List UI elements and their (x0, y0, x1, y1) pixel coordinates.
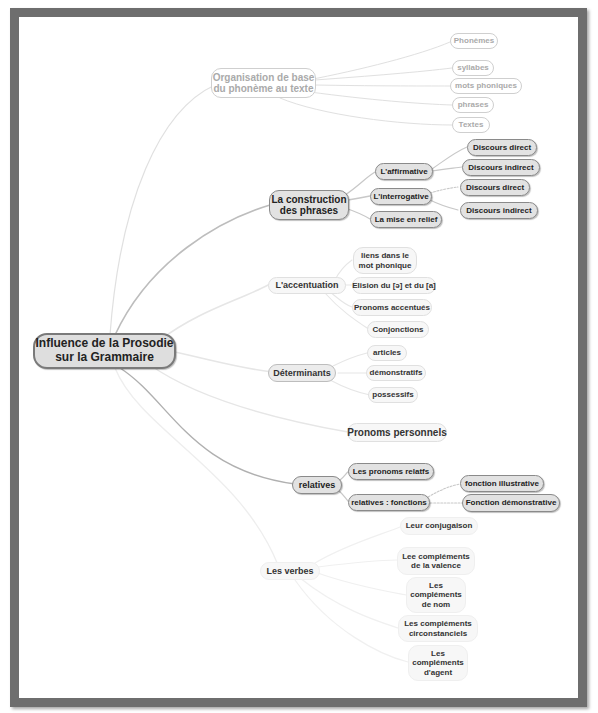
node-complements-agent[interactable]: Les compléments d'agent (408, 645, 468, 681)
node-verbes-label: Les verbes (266, 566, 313, 577)
node-relatives[interactable]: relatives (292, 476, 342, 494)
node-phonemes[interactable]: Phonèmes (450, 33, 498, 49)
node-articles[interactable]: articles (367, 345, 407, 361)
node-accentuation[interactable]: L'accentuation (268, 277, 346, 294)
node-mots-phoniques[interactable]: mots phoniques (450, 78, 522, 94)
node-liens-mot-phonique[interactable]: liens dans le mot phonique (353, 247, 417, 274)
node-syllabes[interactable]: syllabes (452, 60, 494, 76)
node-textes-label: Textes (459, 120, 484, 130)
node-conjugaison[interactable]: Leur conjugaison (400, 517, 478, 535)
node-syllabes-label: syllabes (457, 63, 489, 73)
node-complements-nom[interactable]: Les compléments de nom (406, 577, 466, 613)
node-possessifs[interactable]: possessifs (368, 387, 418, 403)
root-node[interactable]: Influence de la Prosodie sur la Grammair… (33, 333, 176, 369)
node-mise-en-relief-label: La mise en relief (375, 215, 438, 225)
node-fonction-illustrative[interactable]: fonction illustrative (460, 475, 544, 492)
node-organisation[interactable]: Organisation de base du phonème au texte (211, 68, 316, 98)
node-phrases-label: phrases (458, 100, 489, 110)
node-possessifs-label: possessifs (372, 390, 413, 400)
node-affirmative-indirect-label: Discours indirect (468, 163, 533, 173)
node-affirmative-direct-label: Discours direct (473, 143, 531, 153)
node-articles-label: articles (373, 348, 401, 358)
node-accentuation-label: L'accentuation (275, 280, 338, 291)
node-liens-mot-phonique-label: liens dans le mot phonique (354, 251, 416, 269)
node-affirmative[interactable]: L'affirmative (375, 163, 433, 180)
node-relatives-fonctions-label: relatives : fonctions (351, 498, 427, 508)
node-conjonctions[interactable]: Conjonctions (367, 321, 429, 338)
node-mots-phoniques-label: mots phoniques (455, 81, 517, 91)
node-interrogative[interactable]: L'interrogative (370, 188, 432, 205)
node-complements-nom-label: Les compléments de nom (407, 581, 465, 609)
root-node-label: Influence de la Prosodie sur la Grammair… (35, 337, 174, 365)
node-complements-agent-label: Les compléments d'agent (409, 649, 467, 677)
node-elision-label: Elision du [ə] et du [a] (352, 281, 436, 291)
node-pronoms-accentues-label: Pronoms accentués (354, 303, 430, 313)
node-fonction-demonstrative-label: Fonction démonstrative (466, 498, 557, 508)
node-textes[interactable]: Textes (452, 117, 490, 133)
node-construction[interactable]: La construction des phrases (269, 190, 349, 220)
node-interrogative-label: L'interrogative (373, 192, 428, 202)
node-pronoms-personnels[interactable]: Pronoms personnels (347, 423, 447, 442)
node-construction-label: La construction des phrases (270, 194, 348, 217)
node-verbes[interactable]: Les verbes (260, 562, 320, 580)
node-interrogative-indirect-label: Discours indirect (466, 206, 531, 216)
node-complements-circonstanciels-label: Les compléments circonstanciels (399, 619, 477, 637)
node-elision[interactable]: Elision du [ə] et du [a] (352, 277, 436, 294)
node-pronoms-relatifs-label: Les pronoms relatfs (353, 467, 429, 477)
node-phrases[interactable]: phrases (452, 97, 494, 113)
node-determinants[interactable]: Déterminants (268, 364, 336, 382)
node-affirmative-label: L'affirmative (380, 167, 427, 177)
node-pronoms-relatifs[interactable]: Les pronoms relatfs (348, 463, 434, 480)
node-phonemes-label: Phonèmes (454, 36, 494, 46)
node-relatives-fonctions[interactable]: relatives : fonctions (348, 494, 430, 511)
node-relatives-label: relatives (299, 480, 336, 491)
node-complements-valence-label: Lee compléments de la valence (398, 552, 474, 570)
node-pronoms-personnels-label: Pronoms personnels (347, 427, 446, 439)
node-determinants-label: Déterminants (273, 368, 331, 379)
node-interrogative-indirect[interactable]: Discours indirect (460, 202, 538, 219)
node-fonction-illustrative-label: fonction illustrative (465, 479, 539, 489)
node-demonstratifs-label: démonstratifs (370, 368, 423, 378)
node-demonstratifs[interactable]: démonstratifs (366, 365, 426, 381)
node-mise-en-relief[interactable]: La mise en relief (370, 211, 442, 228)
node-pronoms-accentues[interactable]: Pronoms accentués (352, 299, 432, 316)
node-affirmative-indirect[interactable]: Discours indirect (462, 159, 540, 176)
node-complements-circonstanciels[interactable]: Les compléments circonstanciels (398, 615, 478, 642)
node-fonction-demonstrative[interactable]: Fonction démonstrative (462, 494, 560, 512)
node-interrogative-direct[interactable]: Discours direct (460, 179, 530, 196)
node-affirmative-direct[interactable]: Discours direct (467, 139, 537, 156)
node-interrogative-direct-label: Discours direct (466, 183, 524, 193)
node-conjugaison-label: Leur conjugaison (406, 521, 473, 531)
node-conjonctions-label: Conjonctions (372, 325, 423, 335)
node-organisation-label: Organisation de base du phonème au texte (212, 72, 315, 95)
node-complements-valence[interactable]: Lee compléments de la valence (397, 547, 475, 575)
